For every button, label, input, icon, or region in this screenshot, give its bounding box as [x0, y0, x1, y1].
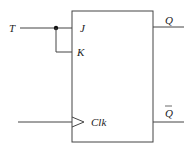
k-label: K: [76, 46, 85, 58]
clk-label: Clk: [91, 116, 107, 128]
clock-edge-triangle-icon: [72, 117, 84, 127]
qbar-label: Q: [165, 107, 173, 119]
jk-flipflop-diagram: T J K Clk Q Q: [0, 0, 195, 146]
t-label: T: [9, 22, 16, 34]
k-input-wire: [56, 28, 72, 52]
j-label: J: [80, 22, 86, 34]
q-label: Q: [165, 14, 173, 26]
